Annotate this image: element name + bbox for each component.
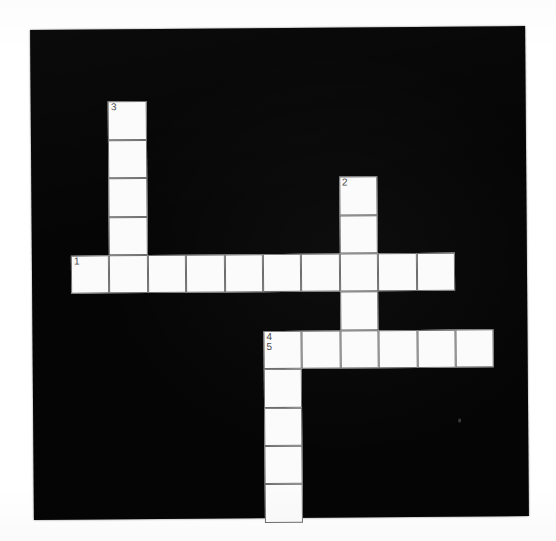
crossword-cell[interactable] <box>455 329 494 368</box>
cell-number-group: 3 <box>111 103 117 114</box>
clue-number: 1 <box>74 257 80 268</box>
crossword-grid[interactable]: 32145 <box>30 26 529 520</box>
crossword-cell[interactable] <box>302 330 341 369</box>
crossword-cell[interactable]: 1 <box>71 255 110 294</box>
crossword-cell[interactable] <box>416 253 455 292</box>
cell-number-group: 2 <box>342 178 348 189</box>
clue-number: 3 <box>111 103 117 114</box>
cell-number-group: 45 <box>266 332 272 353</box>
crossword-cell[interactable] <box>186 254 225 293</box>
crossword-cell[interactable] <box>301 254 340 293</box>
crossword-cell[interactable] <box>109 217 148 256</box>
crossword-cell[interactable] <box>265 484 304 523</box>
crossword-cell[interactable]: 3 <box>108 101 147 140</box>
crossword-cell[interactable] <box>340 330 379 369</box>
crossword-cell[interactable] <box>224 254 263 293</box>
crossword-cell[interactable] <box>339 215 378 254</box>
crossword-cell[interactable] <box>417 329 456 368</box>
crossword-cell[interactable] <box>340 292 379 331</box>
crossword-cell[interactable] <box>109 255 148 294</box>
crossword-cell[interactable] <box>109 178 148 217</box>
crossword-cell[interactable] <box>108 140 147 179</box>
crossword-cell[interactable] <box>264 446 303 485</box>
clue-number: 2 <box>342 178 348 189</box>
cell-number-group: 1 <box>74 257 80 268</box>
crossword-cell[interactable] <box>340 253 379 292</box>
crossword-cell[interactable] <box>378 253 417 292</box>
scan-speck <box>458 419 461 423</box>
crossword-cell[interactable]: 45 <box>263 331 302 370</box>
crossword-cell[interactable] <box>264 407 303 446</box>
clue-number: 5 <box>267 342 273 353</box>
puzzle-board: 32145 <box>30 26 529 520</box>
crossword-cell[interactable] <box>148 255 187 294</box>
crossword-puzzle: 32145 <box>0 0 556 541</box>
crossword-cell[interactable]: 2 <box>339 176 378 215</box>
crossword-cell[interactable] <box>379 330 418 369</box>
crossword-cell[interactable] <box>263 254 302 293</box>
crossword-cell[interactable] <box>264 369 303 408</box>
